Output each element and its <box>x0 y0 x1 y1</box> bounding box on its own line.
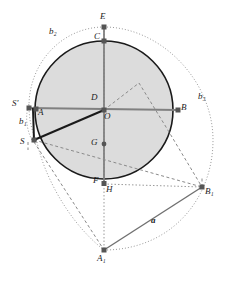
segment-Sprime-S-bold <box>33 108 34 141</box>
label-point-F: F <box>93 176 99 185</box>
label-point-H: H <box>106 185 113 194</box>
label-point-B1: B₁ <box>205 187 214 196</box>
label-point-D: D <box>91 93 98 102</box>
label-point-E: E <box>100 12 106 21</box>
point-B1 <box>200 185 205 190</box>
point-G <box>102 142 107 147</box>
label-point-C: C <box>94 32 100 41</box>
label-arc-b3: b₃ <box>198 92 206 101</box>
geometry-diagram: E C S' A D O B S G F H B₁ A₁ b₁ b₂ b₃ a <box>0 0 228 283</box>
label-segment-a: a <box>151 216 156 225</box>
point-A1 <box>102 248 107 253</box>
point-E <box>102 25 107 30</box>
point-S-prime <box>27 106 32 111</box>
point-S <box>32 138 37 143</box>
label-arc-b1: b₁ <box>19 117 27 126</box>
label-point-O: O <box>104 112 111 121</box>
label-point-S: S <box>20 137 25 146</box>
point-B <box>176 108 181 113</box>
diagram-canvas <box>0 0 228 283</box>
label-point-G: G <box>91 138 98 147</box>
segment-FH-B1 <box>104 184 202 187</box>
point-C <box>102 39 107 44</box>
label-point-S-prime: S' <box>12 99 18 108</box>
label-point-A: A <box>38 108 44 117</box>
label-arc-b2: b₂ <box>49 27 57 36</box>
label-point-A1: A₁ <box>97 254 106 263</box>
label-point-B: B <box>181 103 187 112</box>
